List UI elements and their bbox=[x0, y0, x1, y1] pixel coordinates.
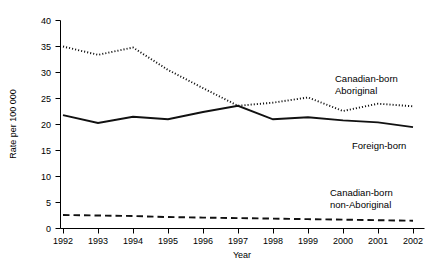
y-axis-ticks: 0 5 10 15 20 25 30 35 40 bbox=[41, 16, 61, 234]
y-tick-label-40: 40 bbox=[41, 16, 51, 26]
y-tick-label-30: 30 bbox=[41, 68, 51, 78]
series-label-canadian-born-aboriginal: Canadian-born Aboriginal bbox=[335, 73, 398, 96]
series-label-canadian-born-non-aboriginal: Canadian-born non-Aboriginal bbox=[330, 187, 393, 210]
series-line-foreign-born bbox=[63, 106, 413, 127]
x-tick-label-1994: 1994 bbox=[123, 236, 143, 246]
series-label-foreign-born-line1: Foreign-born bbox=[352, 140, 406, 151]
series-label-aboriginal-line1: Canadian-born bbox=[335, 73, 398, 84]
series-label-non-aboriginal-line2: non-Aboriginal bbox=[330, 199, 391, 210]
y-tick-label-25: 25 bbox=[41, 94, 51, 104]
x-tick-label-2000: 2000 bbox=[333, 236, 353, 246]
x-tick-label-1995: 1995 bbox=[158, 236, 178, 246]
x-tick-label-1997: 1997 bbox=[228, 236, 248, 246]
x-tick-label-2002: 2002 bbox=[403, 236, 423, 246]
x-tick-label-1993: 1993 bbox=[88, 236, 108, 246]
y-tick-label-15: 15 bbox=[41, 146, 51, 156]
y-tick-label-20: 20 bbox=[41, 120, 51, 130]
series-line-canadian-born-non-aboriginal bbox=[63, 215, 413, 221]
series-label-aboriginal-line2: Aboriginal bbox=[335, 85, 377, 96]
x-tick-label-1998: 1998 bbox=[263, 236, 283, 246]
series-label-foreign-born: Foreign-born bbox=[352, 140, 406, 151]
y-tick-label-10: 10 bbox=[41, 172, 51, 182]
y-axis-title: Rate per 100 000 bbox=[8, 89, 18, 159]
x-tick-label-1999: 1999 bbox=[298, 236, 318, 246]
y-tick-label-0: 0 bbox=[46, 224, 51, 234]
x-tick-label-1996: 1996 bbox=[193, 236, 213, 246]
chart-container: 0 5 10 15 20 25 30 35 40 199219931994199… bbox=[0, 0, 439, 272]
series-label-non-aboriginal-line1: Canadian-born bbox=[330, 187, 393, 198]
y-tick-label-35: 35 bbox=[41, 42, 51, 52]
x-axis-title: Year bbox=[233, 250, 251, 260]
x-tick-label-2001: 2001 bbox=[368, 236, 388, 246]
x-tick-label-1992: 1992 bbox=[53, 236, 73, 246]
y-tick-label-5: 5 bbox=[46, 198, 51, 208]
line-chart: 0 5 10 15 20 25 30 35 40 199219931994199… bbox=[0, 0, 439, 272]
x-axis-ticks: 1992199319941995199619971998199920002001… bbox=[53, 229, 423, 247]
